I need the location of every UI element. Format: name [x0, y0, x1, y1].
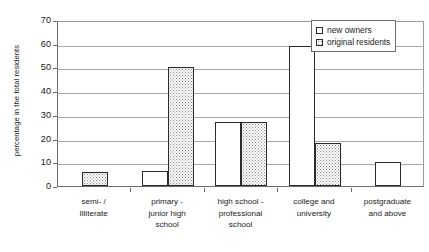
x-axis-category-label-line: school [205, 219, 277, 231]
bar-original-residents [241, 122, 267, 186]
legend-item-label: new owners [327, 25, 372, 35]
y-axis-tick-mark [53, 187, 57, 188]
x-axis-category-label: college anduniversity [278, 196, 350, 219]
y-axis-tick-label: 50 [25, 62, 51, 72]
bar-new-owners [375, 162, 401, 186]
legend-item: new owners [316, 24, 390, 36]
y-axis-title: percentage in the total residents [12, 11, 21, 191]
x-axis-category-label-line: professional [205, 208, 277, 220]
bar-original-residents [82, 172, 108, 186]
bar-group [205, 22, 278, 186]
x-axis-tick-mark [277, 188, 278, 192]
y-axis-tick-label: 0 [25, 181, 51, 191]
x-axis-category-label-line: junior high [131, 208, 203, 220]
x-axis-category-label: semi- /Illiterate [58, 196, 130, 219]
bar-new-owners [215, 122, 241, 186]
x-axis-tick-mark [130, 188, 131, 192]
x-axis-category-label: postgraduateand above [351, 196, 423, 219]
x-axis-category-label-line: primary - [131, 196, 203, 208]
x-axis-category-label: primary -junior highschool [131, 196, 203, 231]
x-axis-category-label: high school -professionalschool [205, 196, 277, 231]
y-axis-tick-label: 20 [25, 134, 51, 144]
legend-item-label: original residents [327, 37, 390, 47]
y-axis-tick-label: 40 [25, 86, 51, 96]
y-axis-tick-label: 30 [25, 110, 51, 120]
bar-chart: percentage in the total residents 010203… [0, 0, 429, 252]
x-axis-category-label-line: high school - [205, 196, 277, 208]
x-axis-category-label-line: school [131, 219, 203, 231]
x-axis-category-label-line: university [278, 208, 350, 220]
bar-group [131, 22, 204, 186]
x-axis-category-label-line: semi- / [58, 196, 130, 208]
bar-new-owners [142, 171, 168, 186]
x-axis-category-label-line: postgraduate [351, 196, 423, 208]
x-axis-category-label-line: Illiterate [58, 208, 130, 220]
legend-item: original residents [316, 36, 390, 48]
x-axis-category-label-line: college and [278, 196, 350, 208]
y-axis-tick-label: 60 [25, 39, 51, 49]
bar-original-residents [168, 67, 194, 186]
y-axis-tick-label: 70 [25, 15, 51, 25]
y-axis-tick-label: 10 [25, 157, 51, 167]
bar-group [58, 22, 131, 186]
x-axis-tick-mark [204, 188, 205, 192]
x-axis-category-label-line: and above [351, 208, 423, 220]
bar-original-residents [315, 143, 341, 186]
x-axis-tick-mark [351, 188, 352, 192]
legend-swatch-dotted [316, 39, 323, 46]
legend-swatch-white [316, 27, 323, 34]
legend: new ownersoriginal residents [311, 20, 396, 52]
bar-new-owners [289, 46, 315, 186]
